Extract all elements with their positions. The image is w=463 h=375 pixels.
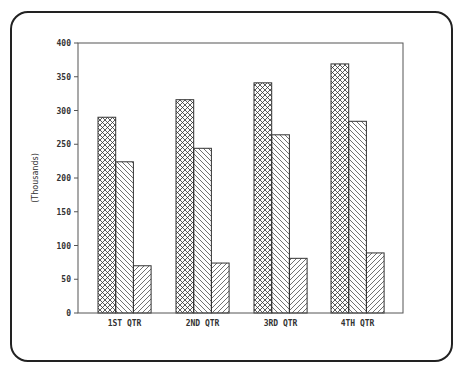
- y-tick-label: 350: [57, 73, 72, 82]
- bar-3-2nd-qtr: [211, 263, 229, 313]
- y-tick-label: 150: [57, 208, 72, 217]
- bar-2-4th-qtr: [349, 121, 367, 313]
- y-tick-label: 300: [57, 107, 72, 116]
- y-tick-label: 50: [61, 275, 71, 284]
- x-category-label: 4TH QTR: [341, 319, 375, 328]
- y-tick-label: 0: [66, 309, 71, 318]
- y-tick-label: 400: [57, 39, 72, 48]
- x-category-label: 1ST QTR: [108, 319, 142, 328]
- y-tick-label: 200: [57, 174, 72, 183]
- x-category-label: 3RD QTR: [264, 319, 298, 328]
- bar-1-4th-qtr: [331, 64, 349, 313]
- bar-2-1st-qtr: [116, 162, 134, 313]
- y-axis-label: (Thousands): [31, 153, 40, 203]
- y-tick-label: 250: [57, 140, 72, 149]
- bar-1-3rd-qtr: [254, 83, 272, 313]
- bar-chart: 050100150200250300350400 1ST QTR2ND QTR3…: [0, 0, 463, 375]
- bar-3-3rd-qtr: [289, 258, 307, 313]
- bar-2-3rd-qtr: [272, 135, 290, 313]
- x-category-label: 2ND QTR: [186, 319, 220, 328]
- y-tick-label: 100: [57, 242, 72, 251]
- bar-1-1st-qtr: [98, 117, 116, 313]
- bar-3-1st-qtr: [133, 266, 151, 313]
- bar-1-2nd-qtr: [176, 100, 194, 313]
- bar-2-2nd-qtr: [194, 148, 212, 313]
- bar-3-4th-qtr: [366, 253, 384, 313]
